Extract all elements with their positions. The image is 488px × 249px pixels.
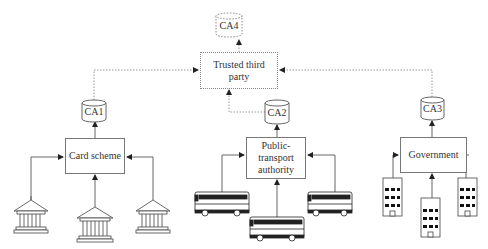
- card-scheme-box: Card scheme: [65, 138, 125, 174]
- diagram-canvas: [0, 0, 488, 249]
- ca3-to-ttp-arrow: [280, 70, 432, 97]
- ca1-to-ttp-arrow: [94, 70, 198, 100]
- ca2-label: CA2: [265, 107, 289, 118]
- ca2-to-ttp-arrow: [229, 90, 265, 112]
- office-building-icon: [458, 178, 477, 216]
- bus-icon: [308, 192, 352, 216]
- office-building-icon: [421, 198, 440, 237]
- public-transport-authority-box: Public-transport authority: [246, 137, 306, 179]
- ca1-label: CA1: [82, 106, 106, 117]
- office-building-icon: [383, 178, 402, 216]
- bank-building-icon: [77, 207, 113, 242]
- bus-icon: [195, 192, 249, 216]
- bus-icon: [250, 217, 304, 241]
- ca4-label: CA4: [216, 20, 242, 31]
- government-box: Government: [400, 137, 467, 173]
- trusted-third-party-box: Trusted third party: [200, 52, 278, 89]
- ca3-label: CA3: [421, 103, 444, 114]
- bank-building-icon: [136, 200, 170, 233]
- bank-building-icon: [14, 196, 48, 233]
